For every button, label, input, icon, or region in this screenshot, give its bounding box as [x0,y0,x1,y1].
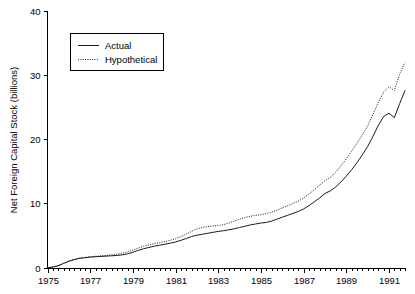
x-tick-label: 1975 [38,275,59,286]
y-tick-label: 10 [30,198,41,209]
y-axis: 010203040 [30,6,48,274]
legend-label-hypothetical: Hypothetical [105,54,157,65]
y-axis-title: Net Foreign Capital Stock (billions) [8,67,19,213]
x-tick-label: 1979 [123,275,144,286]
y-tick-label: 30 [30,70,41,81]
y-tick-label: 0 [35,263,40,274]
x-tick-label: 1989 [336,275,357,286]
x-tick-label: 1985 [251,275,272,286]
x-axis: 197519771979198119831985198719891991 [38,268,406,286]
x-axis-tick-labels: 197519771979198119831985198719891991 [38,275,400,286]
series-line-actual [48,91,406,268]
x-tick-label: 1983 [208,275,229,286]
y-tick-label: 20 [30,134,41,145]
series-line-hypothetical [48,62,406,267]
y-axis-ticks [44,11,48,268]
legend: Actual Hypothetical [71,34,164,71]
chart-container: 010203040 197519771979198119831985198719… [0,0,415,294]
x-tick-label: 1977 [80,275,101,286]
line-chart: 010203040 197519771979198119831985198719… [0,0,415,294]
data-series-group [48,62,406,267]
x-tick-label: 1987 [294,275,315,286]
y-tick-label: 40 [30,6,41,17]
legend-label-actual: Actual [105,40,131,51]
x-tick-label: 1981 [166,275,187,286]
x-tick-label: 1991 [379,275,400,286]
y-axis-tick-labels: 010203040 [30,6,41,274]
